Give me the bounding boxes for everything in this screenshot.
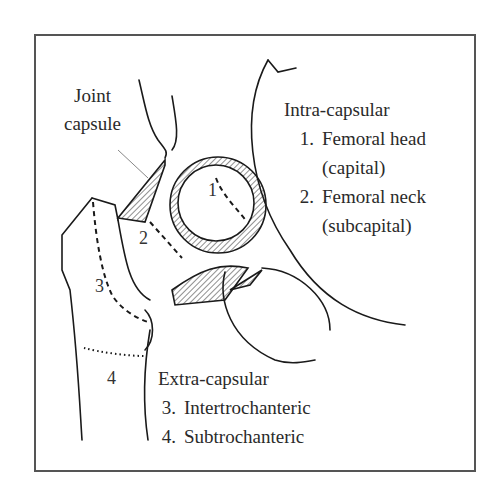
legend-item-subtrochanteric: 4.Subtrochanteric — [158, 422, 311, 451]
legend-item-femoral-head: 1.Femoral head — [284, 124, 426, 153]
intra-capsular-legend: Intra-capsular 1.Femoral head (capital) … — [284, 95, 426, 240]
joint-capsule-label: Joint capsule — [64, 82, 121, 138]
legend-item-femoral-neck: 2.Femoral neck — [284, 182, 426, 211]
legend-item-intertrochanteric: 3.Intertrochanteric — [158, 393, 311, 422]
intra-capsular-heading: Intra-capsular — [284, 95, 426, 124]
region-marker-4: 4 — [107, 368, 116, 389]
region-marker-1: 1 — [208, 180, 217, 201]
region-marker-3: 3 — [95, 276, 104, 297]
region-marker-2: 2 — [139, 228, 148, 249]
extra-capsular-heading: Extra-capsular — [158, 364, 311, 393]
extra-capsular-legend: Extra-capsular 3.Intertrochanteric 4.Sub… — [158, 364, 311, 451]
